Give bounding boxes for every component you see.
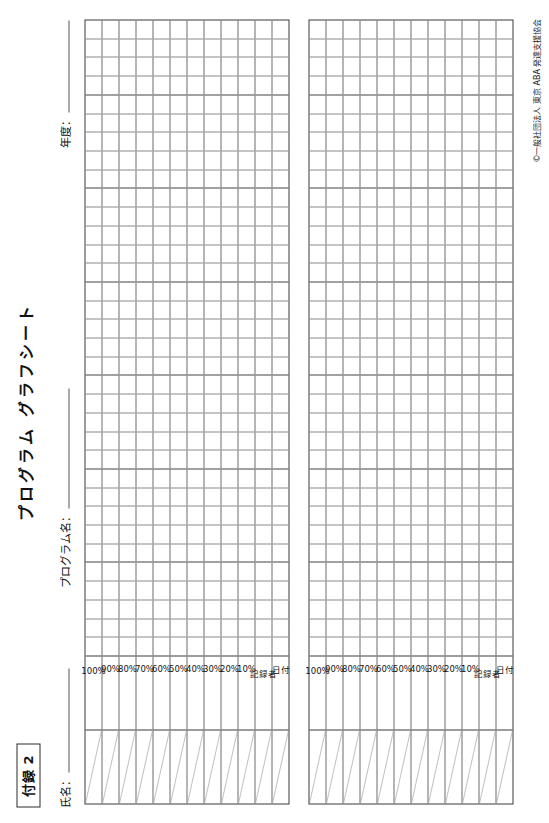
grid-cell[interactable] [428, 113, 444, 132]
grid-cell[interactable] [119, 131, 135, 150]
grid-cell[interactable] [153, 468, 169, 487]
grid-cell[interactable] [343, 543, 359, 562]
grid-cell[interactable] [394, 94, 410, 113]
table-row[interactable] [496, 20, 512, 655]
grid-cell[interactable] [221, 431, 237, 450]
grid-cell[interactable] [411, 561, 427, 580]
grid-cell[interactable] [360, 262, 376, 281]
grid-cell[interactable] [343, 618, 359, 637]
grid-cell[interactable] [411, 505, 427, 524]
grid-cell[interactable] [411, 337, 427, 356]
grid-cell[interactable] [119, 618, 135, 637]
grid-cell[interactable] [136, 300, 152, 319]
grid-cell[interactable] [187, 636, 203, 655]
grid-cell[interactable] [360, 318, 376, 337]
grid-cell[interactable] [102, 244, 118, 263]
grid-cell[interactable] [136, 94, 152, 113]
table-row[interactable] [428, 20, 445, 655]
grid-cell[interactable] [170, 580, 186, 599]
grid-cell[interactable] [187, 449, 203, 468]
grid-cell[interactable] [221, 38, 237, 57]
grid-cell[interactable] [377, 599, 393, 618]
grid-cell[interactable] [170, 300, 186, 319]
grid-cell[interactable] [272, 113, 288, 132]
grid-cell[interactable] [136, 618, 152, 637]
grid-cell[interactable] [479, 580, 495, 599]
header-slash-cell[interactable] [170, 730, 187, 803]
grid-cell[interactable] [479, 281, 495, 300]
grid-cell[interactable] [496, 206, 512, 225]
grid-cell[interactable] [326, 543, 342, 562]
grid-cell[interactable] [136, 543, 152, 562]
header-slash-cell[interactable] [102, 730, 119, 803]
grid-cell[interactable] [153, 281, 169, 300]
grid-cell[interactable] [187, 262, 203, 281]
grid-cell[interactable] [445, 449, 461, 468]
grid-cell[interactable] [411, 393, 427, 412]
grid-cell[interactable] [479, 393, 495, 412]
grid-cell[interactable] [204, 468, 220, 487]
grid-cell[interactable] [309, 599, 325, 618]
grid-cell[interactable] [343, 94, 359, 113]
grid-cell[interactable] [428, 618, 444, 637]
grid-cell[interactable] [119, 225, 135, 244]
grid-cell[interactable] [462, 468, 478, 487]
grid-cell[interactable] [221, 618, 237, 637]
grid-cell[interactable] [102, 505, 118, 524]
grid-cell[interactable] [238, 150, 254, 169]
grid-cell[interactable] [479, 561, 495, 580]
grid-cell[interactable] [272, 281, 288, 300]
table-row[interactable] [394, 20, 411, 655]
grid-cell[interactable] [187, 131, 203, 150]
header-slash-cell[interactable] [238, 730, 255, 803]
grid-cell[interactable] [221, 393, 237, 412]
grid-cell[interactable] [272, 599, 288, 618]
grid-cell[interactable] [309, 187, 325, 206]
grid-cell[interactable] [343, 262, 359, 281]
header-slash-cell[interactable] [428, 730, 445, 803]
grid-cell[interactable] [187, 150, 203, 169]
grid-cell[interactable] [153, 75, 169, 94]
grid-cell[interactable] [411, 412, 427, 431]
grid-cell[interactable] [479, 94, 495, 113]
grid-cell[interactable] [479, 618, 495, 637]
grid-cell[interactable] [377, 57, 393, 76]
grid-cell[interactable] [326, 57, 342, 76]
grid-cell[interactable] [462, 300, 478, 319]
grid-cell[interactable] [496, 57, 512, 76]
grid-cell[interactable] [136, 356, 152, 375]
header-slash-cell[interactable] [85, 730, 102, 803]
grid-cell[interactable] [119, 318, 135, 337]
grid-cell[interactable] [428, 505, 444, 524]
grid-cell[interactable] [102, 94, 118, 113]
grid-cell[interactable] [102, 38, 118, 57]
grid-cell[interactable] [496, 318, 512, 337]
grid-cell[interactable] [204, 75, 220, 94]
grid-cell[interactable] [309, 57, 325, 76]
grid-cell[interactable] [445, 374, 461, 393]
grid-cell[interactable] [360, 412, 376, 431]
header-slash-cell[interactable] [377, 730, 394, 803]
grid-cell[interactable] [272, 543, 288, 562]
grid-cell[interactable] [187, 393, 203, 412]
grid-cell[interactable] [462, 580, 478, 599]
grid-cell[interactable] [377, 393, 393, 412]
grid-cell[interactable] [187, 113, 203, 132]
grid-cell[interactable] [153, 187, 169, 206]
grid-cell[interactable] [204, 169, 220, 188]
grid-cell[interactable] [445, 20, 461, 38]
grid-cell[interactable] [272, 580, 288, 599]
grid-cell[interactable] [394, 300, 410, 319]
grid-cell[interactable] [187, 468, 203, 487]
grid-cell[interactable] [204, 356, 220, 375]
grid-cell[interactable] [238, 38, 254, 57]
grid-cell[interactable] [496, 487, 512, 506]
grid-cell[interactable] [462, 337, 478, 356]
grid-cell[interactable] [428, 449, 444, 468]
grid-cell[interactable] [187, 561, 203, 580]
grid-cell[interactable] [496, 281, 512, 300]
grid-cell[interactable] [479, 57, 495, 76]
grid-cell[interactable] [326, 487, 342, 506]
grid-cell[interactable] [85, 225, 101, 244]
grid-cell[interactable] [479, 300, 495, 319]
